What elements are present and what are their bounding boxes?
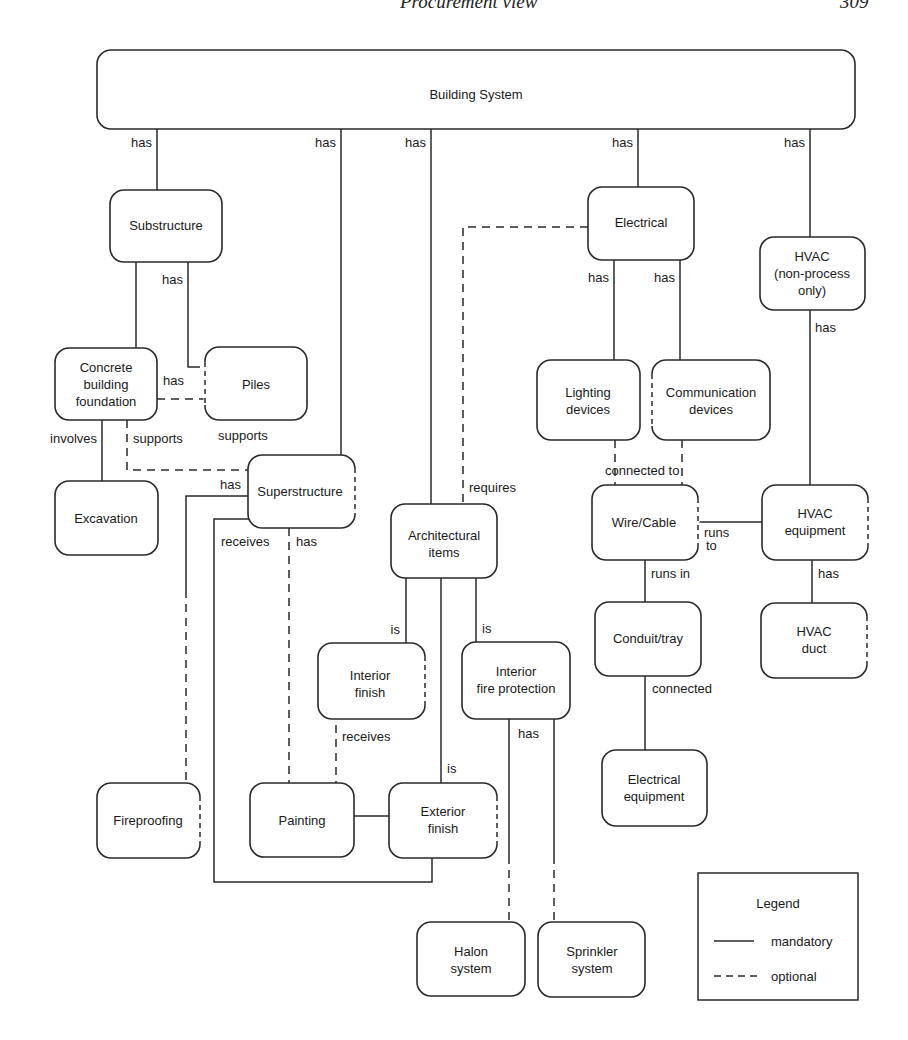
node-sprinkler-system: Sprinkler system xyxy=(538,922,645,997)
edge-label: is xyxy=(482,621,492,636)
node-lighting-devices: Lighting devices xyxy=(537,360,640,440)
node-excavation: Excavation xyxy=(55,481,158,555)
edge-label: connected xyxy=(652,681,712,696)
edge-label: involves xyxy=(50,431,97,446)
node-electrical: Electrical xyxy=(588,187,694,260)
node-label: (non-process xyxy=(774,266,850,281)
node-label: duct xyxy=(802,641,827,656)
node-architectural-items: Architectural items xyxy=(391,504,497,578)
edge-label: receives xyxy=(342,729,391,744)
node-label: system xyxy=(571,961,612,976)
edge-label: has xyxy=(518,726,539,741)
node-piles: Piles xyxy=(205,347,307,420)
node-label: only) xyxy=(798,283,826,298)
edge-label: is xyxy=(447,761,457,776)
node-label: building xyxy=(84,377,129,392)
node-interior-finish: Interior finish xyxy=(318,643,425,719)
edge-label: has xyxy=(818,566,839,581)
edge-label: has xyxy=(315,135,336,150)
node-label: Interior xyxy=(496,664,537,679)
node-label: Communication xyxy=(666,385,756,400)
edge-label: to xyxy=(706,538,717,553)
node-interior-fire-protection: Interior fire protection xyxy=(462,642,570,719)
node-label: Lighting xyxy=(565,385,611,400)
node-label: system xyxy=(450,961,491,976)
node-hvac-duct: HVAC duct xyxy=(761,603,867,678)
edge-label: has xyxy=(296,534,317,549)
building-system-diagram: Building System Substructure Concrete bu… xyxy=(0,0,908,1040)
node-fireproofing: Fireproofing xyxy=(97,783,200,858)
edge-label: has xyxy=(131,135,152,150)
edge-label: has xyxy=(163,373,184,388)
edge-sub-piles xyxy=(188,262,200,367)
node-label: Sprinkler xyxy=(566,944,618,959)
node-label: Concrete xyxy=(80,360,133,375)
nodes: Building System Substructure Concrete bu… xyxy=(55,50,868,997)
edge-label: has xyxy=(654,270,675,285)
edge-label: has xyxy=(612,135,633,150)
edge-label: has xyxy=(815,320,836,335)
node-label: Electrical xyxy=(615,215,668,230)
node-label: Interior xyxy=(350,668,391,683)
node-label: Building System xyxy=(429,87,522,102)
node-painting: Painting xyxy=(250,783,354,857)
node-label: items xyxy=(428,545,460,560)
edge-label: is xyxy=(391,622,401,637)
node-label: Superstructure xyxy=(257,484,342,499)
node-halon-system: Halon system xyxy=(417,922,525,996)
node-label: Exterior xyxy=(421,804,466,819)
node-label: foundation xyxy=(76,394,137,409)
node-label: devices xyxy=(566,402,611,417)
node-concrete-foundation: Concrete building foundation xyxy=(55,348,157,420)
node-label: devices xyxy=(689,402,734,417)
node-label: HVAC xyxy=(797,506,832,521)
node-hvac-equipment: HVAC equipment xyxy=(762,485,868,560)
node-label: HVAC xyxy=(794,249,829,264)
node-label: Electrical xyxy=(628,772,681,787)
node-building-system: Building System xyxy=(97,50,855,129)
edge-label: supports xyxy=(133,431,183,446)
edge-label: has xyxy=(588,270,609,285)
node-wire-cable: Wire/Cable xyxy=(592,485,698,560)
edge-label: has xyxy=(220,477,241,492)
edge-label: requires xyxy=(469,480,516,495)
node-label: Halon xyxy=(454,944,488,959)
node-label: finish xyxy=(355,685,385,700)
node-substructure: Substructure xyxy=(110,190,222,262)
node-hvac-nonprocess: HVAC (non-process only) xyxy=(760,237,865,310)
node-label: fire protection xyxy=(477,681,556,696)
node-conduit-tray: Conduit/tray xyxy=(595,602,701,676)
edge-label: has xyxy=(405,135,426,150)
node-electrical-equipment: Electrical equipment xyxy=(602,750,707,826)
edge-label: connected to xyxy=(605,463,679,478)
legend-mandatory-label: mandatory xyxy=(771,934,833,949)
node-label: finish xyxy=(428,821,458,836)
node-label: Wire/Cable xyxy=(612,515,676,530)
legend-optional-label: optional xyxy=(771,969,817,984)
legend: Legend mandatory optional xyxy=(698,873,858,1000)
edge-label: has xyxy=(162,272,183,287)
node-label: Excavation xyxy=(74,511,138,526)
legend-title: Legend xyxy=(756,896,799,911)
node-label: HVAC xyxy=(796,624,831,639)
node-exterior-finish: Exterior finish xyxy=(389,783,497,858)
node-label: Fireproofing xyxy=(113,813,182,828)
edge-label: supports xyxy=(218,428,268,443)
edge-label: receives xyxy=(221,534,270,549)
node-superstructure: Superstructure xyxy=(248,455,355,528)
node-communication-devices: Communication devices xyxy=(652,360,770,440)
node-label: Painting xyxy=(279,813,326,828)
node-label: Conduit/tray xyxy=(613,631,684,646)
node-label: Substructure xyxy=(129,218,203,233)
edge-label: runs in xyxy=(651,566,690,581)
node-label: Piles xyxy=(242,377,271,392)
node-label: Architectural xyxy=(408,528,480,543)
node-label: equipment xyxy=(624,789,685,804)
edge-label: has xyxy=(784,135,805,150)
node-label: equipment xyxy=(785,523,846,538)
